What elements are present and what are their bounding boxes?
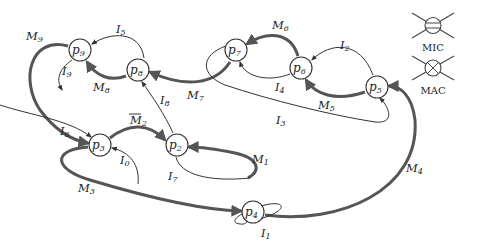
mac-symbol xyxy=(412,56,454,80)
label-m4: M4 xyxy=(405,161,423,176)
edge-i5 xyxy=(92,36,144,58)
legend-mic-label: MIC xyxy=(422,42,444,53)
label-m3: M3 xyxy=(77,181,95,196)
edge-m4 xyxy=(265,86,415,217)
label-m8: M8 xyxy=(92,80,110,95)
label-i6: I6 xyxy=(59,124,70,139)
edge-i4 xyxy=(240,62,290,78)
edge-m2bar xyxy=(110,127,165,140)
node-p6: p6 xyxy=(290,57,312,79)
edge-i6 xyxy=(0,105,91,137)
label-m5: M5 xyxy=(317,98,335,113)
node-p9: p9 xyxy=(69,39,91,61)
diagram-canvas: p2 p3 p4 p5 p6 p7 p8 p9 xyxy=(0,0,478,250)
label-i3: I3 xyxy=(275,113,286,128)
label-m1: M1 xyxy=(251,152,269,167)
label-m2bar: M2 xyxy=(129,113,147,128)
edge-i7 xyxy=(176,157,250,179)
legend: MIC MAC xyxy=(412,13,454,96)
label-i1: I1 xyxy=(260,226,271,241)
node-p2: p2 xyxy=(166,134,188,156)
label-m7: M7 xyxy=(186,88,205,103)
label-i4: I4 xyxy=(274,80,285,95)
label-m9: M9 xyxy=(25,29,43,44)
node-p3: p3 xyxy=(89,134,111,156)
node-p4: p4 xyxy=(242,201,264,223)
node-p7: p7 xyxy=(225,39,247,61)
mic-symbol xyxy=(412,13,454,38)
label-i8: I8 xyxy=(159,93,170,108)
edge-m5 xyxy=(306,80,365,96)
label-i7: I7 xyxy=(167,169,179,184)
label-i5: I5 xyxy=(115,22,126,37)
label-m6: M6 xyxy=(271,18,289,33)
edge-m8 xyxy=(87,62,126,78)
node-p8: p8 xyxy=(127,59,149,81)
edge-m1 xyxy=(189,147,256,178)
edge-m3 xyxy=(62,147,241,211)
edge-m7 xyxy=(150,62,230,82)
label-i2: I2 xyxy=(339,38,350,53)
edge-m6 xyxy=(247,35,298,56)
label-i9: I9 xyxy=(61,64,72,79)
node-p5: p5 xyxy=(366,76,388,98)
legend-mac-label: MAC xyxy=(420,85,445,96)
